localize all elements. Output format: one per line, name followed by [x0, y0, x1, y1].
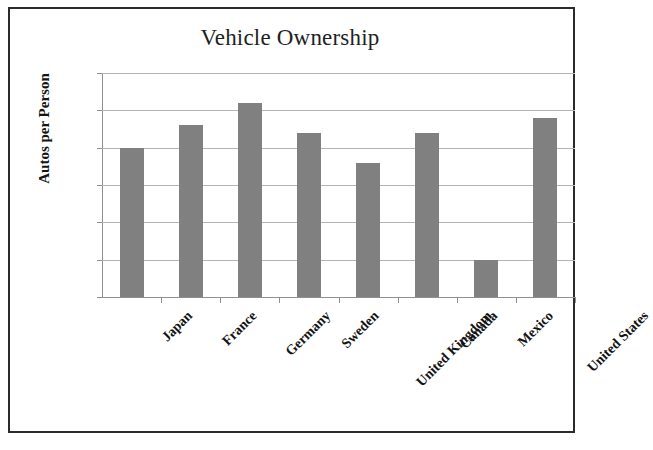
- y-tick-mark: [97, 185, 102, 186]
- gridline: [102, 148, 575, 149]
- x-tick-mark: [279, 297, 280, 303]
- y-tick-mark: [97, 260, 102, 261]
- y-tick-mark: [97, 110, 102, 111]
- gridline: [102, 222, 575, 223]
- gridline: [102, 110, 575, 111]
- bar: [356, 163, 380, 297]
- bar: [238, 103, 262, 297]
- x-tick-mark: [516, 297, 517, 303]
- bar: [415, 133, 439, 297]
- x-tick-mark: [575, 297, 576, 303]
- bar: [533, 118, 557, 297]
- x-tick-mark: [161, 297, 162, 303]
- gridline: [102, 73, 575, 74]
- y-axis-title: Autos per Person: [36, 39, 53, 219]
- bar: [120, 148, 144, 297]
- x-tick-label: United States: [585, 308, 653, 376]
- chart-title: Vehicle Ownership: [60, 25, 520, 51]
- bar: [474, 260, 498, 297]
- y-tick-mark: [97, 148, 102, 149]
- x-tick-mark: [339, 297, 340, 303]
- y-tick-mark: [97, 222, 102, 223]
- gridline: [102, 260, 575, 261]
- gridline: [102, 185, 575, 186]
- plot-area: 00.10.20.30.40.50.6: [102, 73, 575, 297]
- x-tick-mark: [398, 297, 399, 303]
- bar: [297, 133, 321, 297]
- y-tick-mark: [97, 73, 102, 74]
- bar: [179, 125, 203, 297]
- y-tick-mark: [97, 297, 102, 298]
- x-tick-mark: [457, 297, 458, 303]
- x-tick-mark: [220, 297, 221, 303]
